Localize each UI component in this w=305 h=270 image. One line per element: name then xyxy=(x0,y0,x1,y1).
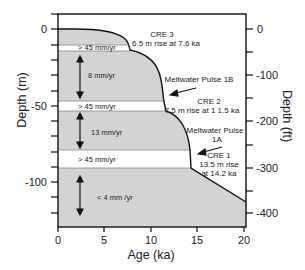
cre1-title: CRE 1 xyxy=(207,151,231,160)
cre2-title: CRE 2 xyxy=(197,97,221,106)
cre3-text: 6.5 m rise at 7.6 ka xyxy=(132,39,201,48)
y-tick-left-50: -50 xyxy=(31,100,47,112)
cre3-title: CRE 3 xyxy=(150,30,174,39)
mwp1a-line2: 1A xyxy=(212,135,222,144)
mwp1a-line1: Meltwater Pulse xyxy=(187,126,244,135)
rate-label-4: 13 mm/yr xyxy=(91,128,123,137)
x-tick-20: 20 xyxy=(238,234,250,246)
y-tick-right-400: -400 xyxy=(256,207,278,219)
y-axis-right-label: Depth (ft) xyxy=(280,90,294,142)
rate-label-5: > 45 mm/yr xyxy=(78,155,116,164)
rate-label-2: 8 mm/yr xyxy=(88,71,116,80)
y-axis-left xyxy=(51,14,58,213)
y-tick-right-100: -100 xyxy=(256,69,278,81)
chart-svg: 0 -50 -100 Depth (m) 0 -100 -200 -300 -4… xyxy=(0,0,305,270)
y-tick-left-0: 0 xyxy=(41,23,47,35)
cre1-line2: at 14.2 ka xyxy=(201,169,237,178)
rate-label-1: > 45 mm/yr xyxy=(78,43,116,52)
x-axis-label: Age (ka) xyxy=(127,248,174,262)
y-tick-right-0: 0 xyxy=(257,23,263,35)
y-tick-right-200: -200 xyxy=(256,115,278,127)
x-axis xyxy=(58,227,244,232)
rate-label-6: < 4 mm /yr xyxy=(97,193,133,202)
cre2-text: 7.5 m rise at 1 1.5 ka xyxy=(165,106,240,115)
rate-label-3: > 45 mm/yr xyxy=(78,102,116,111)
y-axis-right xyxy=(246,29,253,213)
mwp1b-label: Meltwater Pulse 1B xyxy=(165,75,234,84)
y-tick-right-300: -300 xyxy=(256,162,278,174)
x-tick-5: 5 xyxy=(101,234,107,246)
x-tick-10: 10 xyxy=(145,234,157,246)
y-axis-left-label: Depth (m) xyxy=(15,72,29,128)
y-tick-left-100: -100 xyxy=(25,176,47,188)
arrow-left-icon xyxy=(170,88,196,96)
x-tick-15: 15 xyxy=(191,234,203,246)
cre1-line1: 13.5 m rise xyxy=(199,160,239,169)
x-tick-0: 0 xyxy=(55,234,61,246)
sea-level-chart: 0 -50 -100 Depth (m) 0 -100 -200 -300 -4… xyxy=(0,0,305,270)
